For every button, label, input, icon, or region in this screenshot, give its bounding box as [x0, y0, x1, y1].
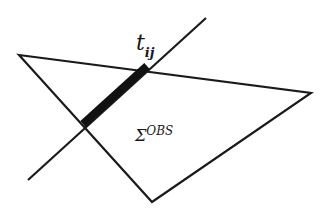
line-label-subscript: ij	[145, 45, 155, 60]
diagram-canvas: tij ΣOBS	[0, 0, 334, 214]
surface-label: ΣOBS	[134, 124, 173, 145]
surface-label-symbol: Σ	[134, 126, 147, 145]
intersection-segment	[83, 66, 147, 124]
line-label: tij	[136, 30, 155, 60]
line-label-main: t	[136, 30, 145, 55]
ray-line	[28, 18, 206, 180]
surface-label-superscript: OBS	[146, 124, 173, 138]
